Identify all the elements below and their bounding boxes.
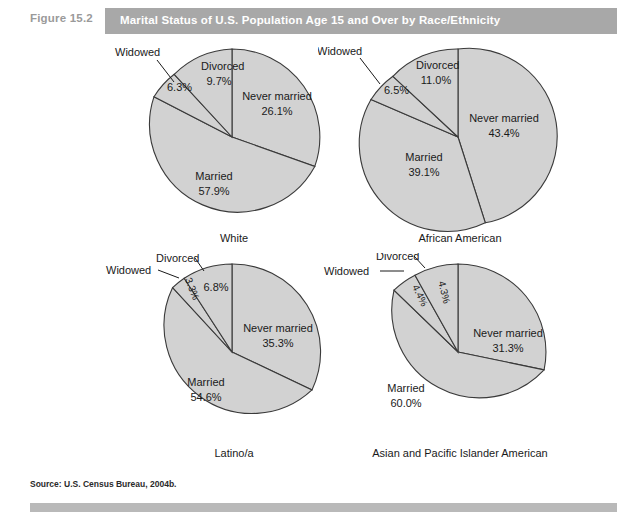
label-married: Married [187,376,224,388]
pie-chart-african-american: Never married 43.4% Married 39.1% Widowe… [318,38,618,253]
label-married-pct: 60.0% [390,397,421,409]
label-widowed: Widowed [115,46,160,58]
figure-title: Marital Status of U.S. Population Age 15… [120,14,500,26]
pie-leader-lines-african-american [360,58,380,84]
figure-title-bar: Marital Status of U.S. Population Age 15… [105,8,617,34]
label-widowed-pct: 6.5% [384,84,409,96]
label-married: Married [405,151,442,163]
source-note: Source: U.S. Census Bureau, 2004b. [30,479,176,489]
label-widowed: Widowed [106,264,151,276]
label-married-pct: 57.9% [198,185,229,197]
pie-panel-african-american: Never married 43.4% Married 39.1% Widowe… [318,38,618,253]
label-widowed: Widowed [318,45,362,57]
pie-caption-asian-pacific-islander: Asian and Pacific Islander American [310,447,610,459]
pie-slices-african-american [359,48,557,231]
label-married-pct: 54.6% [190,391,221,403]
bottom-divider-bar [30,503,617,512]
pie-chart-grid: Never married 26.1% Married 57.9% Widowe… [0,38,643,470]
label-divorced: Divorced [201,60,244,72]
label-never-married-pct: 31.3% [492,342,523,354]
label-divorced-pct: 9.7% [206,75,231,87]
label-married: Married [387,382,424,394]
pie-caption-african-american: African American [310,232,610,244]
label-widowed-pct: 6.3% [167,81,192,93]
label-widowed: Widowed [324,265,369,277]
figure-header: Figure 15.2 Marital Status of U.S. Popul… [0,8,643,34]
label-never-married-pct: 26.1% [261,105,292,117]
label-married-pct: 39.1% [408,166,439,178]
label-divorced-pct: 6.8% [203,281,228,293]
pie-chart-asian-pacific-islander: Never married 31.3% Married 60.0% Widowe… [318,253,618,470]
label-never-married: Never married [469,112,539,124]
figure-number: Figure 15.2 [30,12,93,24]
pie-leader-lines-white [157,60,174,82]
slice-never-married [458,264,546,370]
label-divorced: Divorced [156,253,199,264]
label-never-married: Never married [242,90,312,102]
label-never-married-pct: 35.3% [262,337,293,349]
label-never-married: Never married [243,322,313,334]
label-divorced: Divorced [416,59,459,71]
label-never-married: Never married [473,327,543,339]
label-divorced: Divorced [376,253,419,262]
pie-slices-white [150,49,320,212]
label-married: Married [195,170,232,182]
pie-panel-asian-pacific-islander: Never married 31.3% Married 60.0% Widowe… [318,253,618,468]
label-never-married-pct: 43.4% [488,127,519,139]
label-divorced-pct: 11.0% [421,74,452,86]
